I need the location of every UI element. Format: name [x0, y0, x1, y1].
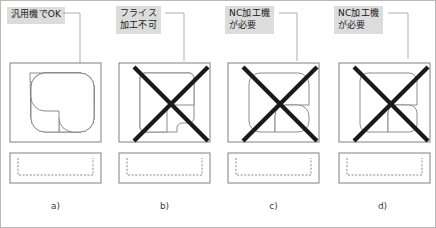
caption-a: a) — [1, 201, 110, 211]
caption-d: d) — [328, 201, 436, 211]
top-view-b — [110, 1, 219, 228]
top-view-a — [1, 1, 110, 228]
top-view-c — [219, 1, 328, 228]
panel-a: 汎用機でOK a) — [1, 1, 110, 228]
panel-b: フライス 加工不可 b) — [110, 1, 219, 228]
caption-b: b) — [110, 201, 219, 211]
panel-d: NC加工機 が必要 d) — [328, 1, 436, 228]
top-view-d — [328, 1, 436, 228]
caption-c: c) — [219, 201, 328, 211]
panel-c: NC加工機 が必要 c) — [219, 1, 328, 228]
figure-frame: 汎用機でOK a) フライス 加工不可 — [0, 0, 436, 228]
